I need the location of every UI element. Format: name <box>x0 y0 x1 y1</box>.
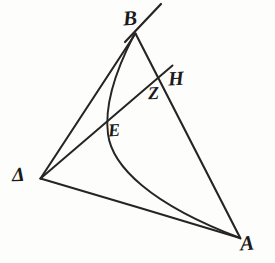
figure-canvas <box>0 0 275 263</box>
point-label-e: E <box>107 121 120 140</box>
geometry-figure: B H Z E Δ A <box>0 0 275 263</box>
point-label-b: B <box>122 8 137 30</box>
point-label-h: H <box>167 68 184 89</box>
point-label-z: Z <box>148 84 160 102</box>
point-label-delta: Δ <box>12 164 25 184</box>
point-label-a: A <box>239 233 254 255</box>
